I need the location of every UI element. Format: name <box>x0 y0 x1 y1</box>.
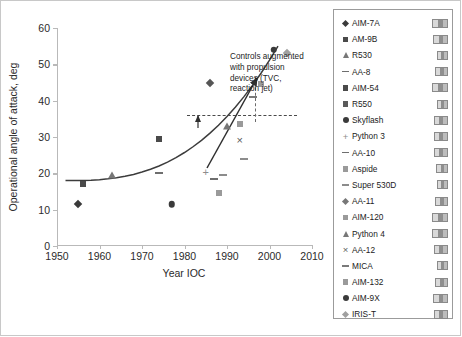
y-tick-label: 10 <box>38 204 50 216</box>
legend-label: AA-8 <box>351 67 435 77</box>
x-tick-label: 1970 <box>130 250 153 262</box>
legend-label: AIM-132 <box>351 277 435 287</box>
missile-thumbnail-icon <box>432 229 448 238</box>
square-marker-icon <box>340 215 351 221</box>
legend-label: AA-11 <box>351 196 435 206</box>
legend-item-python-3[interactable]: +Python 3 <box>340 128 448 144</box>
chart-figure: 6050403020100 19501960197019801990200020… <box>0 0 462 337</box>
missile-thumbnail-icon <box>435 197 448 206</box>
x-tick-label: 1980 <box>173 250 196 262</box>
diamond-marker-icon <box>340 21 351 26</box>
legend-label: AA-10 <box>351 148 434 158</box>
legend-box: AIM-7AAM-9BR530AA-8AIM-54R550Skyflash+Py… <box>333 9 453 319</box>
triangle-marker-icon <box>340 231 351 237</box>
plus-marker-icon: + <box>340 132 351 142</box>
dash-marker-icon <box>340 152 351 154</box>
missile-thumbnail-icon <box>434 310 448 319</box>
missile-thumbnail-icon <box>432 83 448 92</box>
square-marker-icon <box>340 85 351 91</box>
legend-item-iris-t[interactable]: IRIS-T <box>340 306 448 322</box>
square-marker-icon <box>340 279 351 285</box>
legend-label: AIM-120 <box>351 212 432 222</box>
missile-thumbnail-icon <box>435 67 448 76</box>
legend-item-mica[interactable]: MICA <box>340 258 448 274</box>
legend-label: R550 <box>351 99 437 109</box>
y-tick-label: 60 <box>38 22 50 34</box>
legend-label: Super 530D <box>351 180 437 190</box>
data-point-aspide <box>216 190 222 196</box>
x-tick-label: 2000 <box>258 250 281 262</box>
missile-thumbnail-icon <box>434 245 448 254</box>
data-point-aa-8 <box>155 172 163 174</box>
legend-label: MICA <box>351 261 437 271</box>
legend-label: IRIS-T <box>351 309 434 319</box>
legend-item-skyflash[interactable]: Skyflash <box>340 112 448 128</box>
missile-thumbnail-icon <box>435 278 448 287</box>
annotation-line-1: Controls augmented <box>230 52 316 63</box>
missile-thumbnail-icon <box>437 261 448 270</box>
legend-item-super-530d[interactable]: Super 530D <box>340 177 448 193</box>
data-point-r530 <box>108 172 116 179</box>
legend-item-aim-9x[interactable]: AIM-9X <box>340 290 448 306</box>
legend-item-aspide[interactable]: Aspide <box>340 161 448 177</box>
missile-thumbnail-icon <box>436 164 448 173</box>
missile-thumbnail-icon <box>434 132 448 141</box>
legend-item-r530[interactable]: R530 <box>340 47 448 63</box>
legend-label: AIM-9X <box>351 293 433 303</box>
data-point-aa-11 <box>223 123 231 130</box>
y-axis-title: Operational angle of attack, deg <box>7 63 19 212</box>
data-point-python-3: + <box>203 168 209 179</box>
legend-label: AIM-54 <box>351 83 432 93</box>
x-tick <box>312 245 313 249</box>
missile-thumbnail-icon <box>432 19 448 28</box>
y-tick-label: 40 <box>38 95 50 107</box>
legend-label: AM-9B <box>351 34 433 44</box>
data-point-am-9b <box>80 181 86 187</box>
circle-marker-icon <box>340 295 351 301</box>
legend-label: Aspide <box>351 164 436 174</box>
x-tick-label: 1950 <box>45 250 68 262</box>
legend-item-aim-7a[interactable]: AIM-7A <box>340 15 448 31</box>
data-point-aa-12 <box>240 158 248 160</box>
missile-thumbnail-icon <box>433 35 448 44</box>
legend-item-aa-10[interactable]: AA-10 <box>340 145 448 161</box>
annotation-line-3: devices (TVC, <box>230 74 316 85</box>
legend-item-aa-8[interactable]: AA-8 <box>340 64 448 80</box>
square-marker-icon <box>340 166 351 172</box>
y-tick-label: 30 <box>38 131 50 143</box>
data-point-aim-120 <box>237 121 243 127</box>
x-tick-label: 1960 <box>88 250 111 262</box>
data-point-python-4: × <box>237 135 243 146</box>
legend-item-r550[interactable]: R550 <box>340 96 448 112</box>
legend-item-python-4[interactable]: Python 4 <box>340 225 448 241</box>
legend-label: R530 <box>351 50 437 60</box>
data-point-r550 <box>169 201 176 208</box>
annotation-line-4: reaction jet) <box>230 84 316 95</box>
legend-item-aim-132[interactable]: AIM-132 <box>340 274 448 290</box>
missile-thumbnail-icon <box>434 116 448 125</box>
cross-marker-icon: × <box>340 245 351 255</box>
missile-thumbnail-icon <box>437 51 448 60</box>
legend-label: Python 4 <box>351 229 432 239</box>
data-point-super-530d <box>219 174 227 176</box>
legend-item-aa-12[interactable]: ×AA-12 <box>340 242 448 258</box>
missile-thumbnail-icon <box>437 180 448 189</box>
annotation-text: Controls augmented with propulsion devic… <box>230 52 316 95</box>
x-tick-label: 1990 <box>215 250 238 262</box>
legend-item-aim-120[interactable]: AIM-120 <box>340 209 448 225</box>
data-point-mica <box>249 96 257 98</box>
legend-item-am-9b[interactable]: AM-9B <box>340 31 448 47</box>
missile-thumbnail-icon <box>432 213 448 222</box>
dash-marker-icon <box>340 265 351 267</box>
y-tick-label: 20 <box>38 167 50 179</box>
data-point-aim-54 <box>156 136 162 142</box>
legend-item-aim-54[interactable]: AIM-54 <box>340 80 448 96</box>
dash-marker-icon <box>340 71 351 73</box>
x-axis-title: Year IOC <box>163 267 206 279</box>
legend-label: Skyflash <box>351 115 434 125</box>
diamond-marker-icon <box>340 312 351 317</box>
triangle-marker-icon <box>340 52 351 58</box>
x-tick-label: 2010 <box>300 250 323 262</box>
legend-item-aa-11[interactable]: AA-11 <box>340 193 448 209</box>
diamond-marker-icon <box>340 199 351 204</box>
